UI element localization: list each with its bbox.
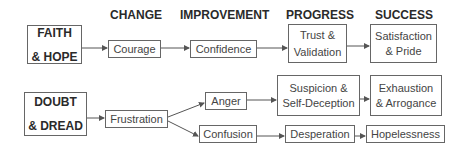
node-label: DOUBT bbox=[34, 90, 77, 114]
node-label: Frustration bbox=[110, 112, 163, 127]
node-courage: Courage bbox=[108, 40, 161, 58]
node-label: Validation bbox=[294, 44, 342, 61]
node-label: Desperation bbox=[290, 127, 349, 142]
node-exhaustion-arrogance: Exhaustion & Arrogance bbox=[370, 75, 442, 116]
header-improvement: IMPROVEMENT bbox=[180, 8, 269, 22]
node-label: Satisfaction bbox=[375, 29, 432, 44]
emotion-flow-diagram: CHANGE IMPROVEMENT PROGRESS SUCCESS FAIT… bbox=[0, 0, 467, 153]
header-change: CHANGE bbox=[110, 8, 162, 22]
node-label: Courage bbox=[113, 42, 155, 57]
node-label: Suspicion & bbox=[289, 81, 347, 96]
node-label: Exhaustion bbox=[379, 81, 433, 96]
node-label: Self-Deception bbox=[282, 96, 354, 111]
node-label: Anger bbox=[211, 94, 240, 109]
node-label: Hopelessness bbox=[371, 127, 440, 142]
node-label: & DREAD bbox=[28, 114, 83, 138]
node-confidence: Confidence bbox=[190, 40, 257, 58]
node-label: & HOPE bbox=[31, 45, 77, 69]
node-frustration: Frustration bbox=[105, 110, 168, 128]
node-label: Trust & bbox=[300, 27, 335, 44]
node-label: Confidence bbox=[196, 42, 252, 57]
node-label: & Pride bbox=[385, 44, 421, 59]
header-success: SUCCESS bbox=[375, 8, 433, 22]
node-satisfaction-pride: Satisfaction & Pride bbox=[370, 24, 437, 63]
node-label: Confusion bbox=[203, 127, 253, 142]
node-anger: Anger bbox=[205, 92, 247, 110]
node-hopelessness: Hopelessness bbox=[366, 125, 445, 143]
node-trust-validation: Trust & Validation bbox=[288, 24, 347, 63]
node-label: FAITH bbox=[37, 21, 72, 45]
node-faith-hope: FAITH & HOPE bbox=[27, 25, 82, 64]
node-suspicion-self-deception: Suspicion & Self-Deception bbox=[277, 75, 360, 116]
node-desperation: Desperation bbox=[285, 125, 355, 143]
node-label: & Arrogance bbox=[376, 96, 437, 111]
header-progress: PROGRESS bbox=[286, 8, 354, 22]
node-doubt-dread: DOUBT & DREAD bbox=[24, 92, 87, 136]
node-confusion: Confusion bbox=[199, 125, 257, 143]
